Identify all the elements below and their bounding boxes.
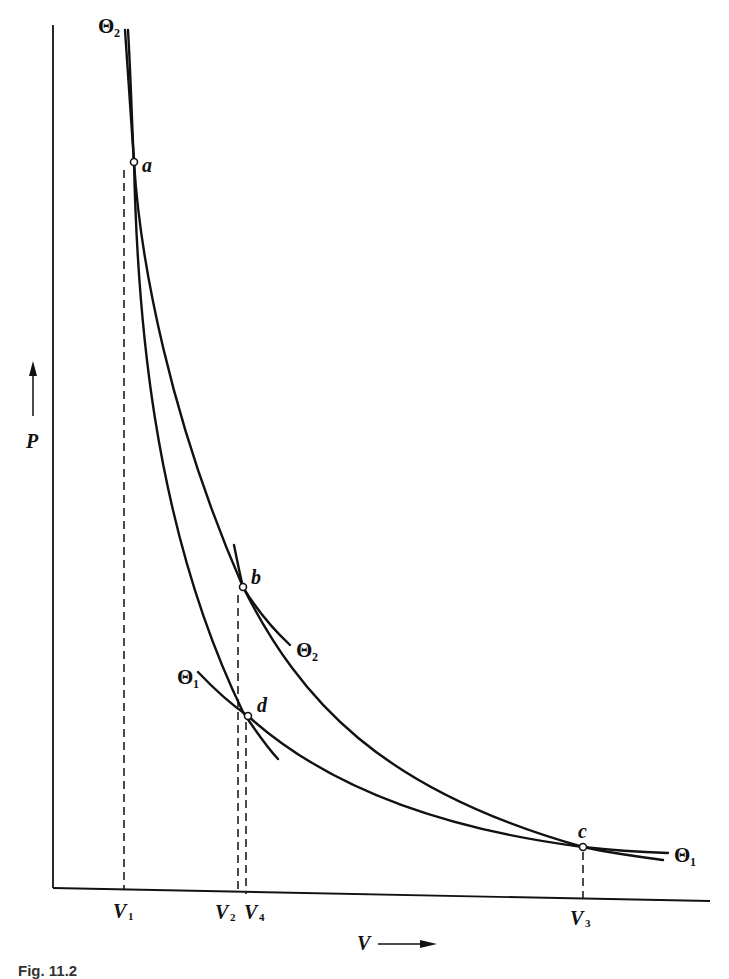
adiabat-b-c [243, 587, 663, 860]
theta1-left-label: Θ 1 [177, 665, 199, 691]
point-c [580, 844, 587, 851]
tick-v2: V 2 [215, 901, 236, 923]
point-d [245, 713, 252, 720]
svg-text:2: 2 [114, 26, 120, 40]
svg-text:V: V [570, 907, 585, 929]
svg-text:2: 2 [230, 911, 236, 923]
svg-text:Θ: Θ [296, 638, 312, 662]
svg-text:V: V [244, 901, 259, 923]
svg-text:1: 1 [193, 677, 199, 691]
y-axis-label: P [25, 430, 39, 452]
svg-text:Θ: Θ [674, 843, 690, 867]
tick-v4: V 4 [244, 901, 265, 923]
svg-text:1: 1 [128, 910, 134, 922]
adiabat-a-d [134, 162, 278, 759]
point-b [240, 584, 247, 591]
label-d: d [257, 694, 268, 716]
label-b: b [251, 566, 261, 588]
svg-text:Θ: Θ [98, 14, 114, 38]
isotherm-theta2 [134, 162, 290, 645]
svg-text:4: 4 [259, 911, 265, 923]
up-arrow-icon [29, 361, 37, 416]
right-arrow-icon [378, 940, 437, 948]
theta1-right-label: Θ 1 [674, 843, 696, 869]
theta2-top-label: Θ 2 [98, 14, 120, 40]
adiabat-top-stub [234, 545, 243, 587]
svg-text:V: V [215, 901, 230, 923]
svg-text:3: 3 [585, 917, 591, 929]
tick-v1: V 1 [113, 900, 134, 922]
theta2-mid-label: Θ 2 [296, 638, 318, 664]
x-axis [53, 888, 710, 901]
figure-caption: Fig. 11.2 [18, 962, 77, 979]
svg-text:Θ: Θ [177, 665, 193, 689]
label-a: a [142, 154, 152, 176]
x-axis-label: V [357, 932, 372, 954]
label-c: c [578, 820, 587, 842]
svg-text:V: V [113, 900, 128, 922]
svg-text:2: 2 [312, 650, 318, 664]
point-a [131, 159, 138, 166]
svg-text:1: 1 [690, 855, 696, 869]
tick-v3: V 3 [570, 907, 591, 929]
isotherm-theta1 [198, 672, 668, 853]
